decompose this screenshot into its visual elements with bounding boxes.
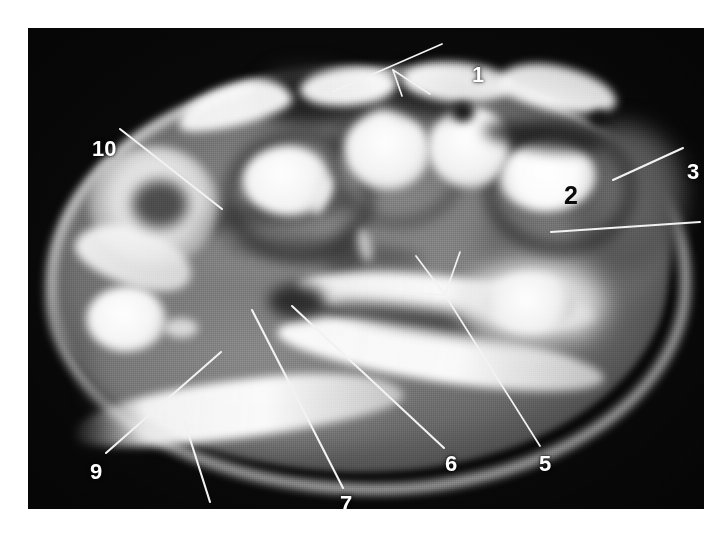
cortical-rim	[46, 68, 690, 494]
annotation-label-1: 1	[472, 64, 484, 86]
annotation-label-7: 7	[340, 493, 352, 509]
annotation-label-10: 10	[92, 138, 116, 160]
annotation-label-9: 9	[90, 461, 102, 483]
annotation-label-2: 2	[564, 183, 578, 208]
annotation-label-8: 8	[205, 508, 217, 509]
mri-scan-plate: 12345678910	[28, 28, 704, 509]
annotation-label-3: 3	[687, 161, 699, 183]
figure-page: 12345678910	[0, 0, 728, 545]
annotation-label-5: 5	[539, 453, 551, 475]
annotation-label-6: 6	[445, 453, 457, 475]
